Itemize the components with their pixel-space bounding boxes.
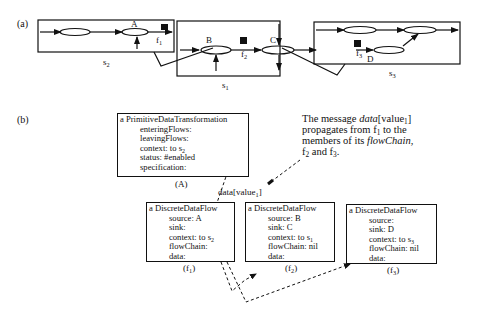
flow-f1-label: f1	[156, 35, 162, 45]
discrete-data-flow-f1-box: a DiscreteDataFlow source: A sink: conte…	[146, 202, 235, 262]
scope-s1-box	[177, 21, 280, 76]
token-f1	[161, 24, 168, 30]
flow-f2-label: f2	[241, 49, 247, 59]
discrete-data-flow-f2-box: a DiscreteDataFlow source: B sink: C con…	[245, 202, 335, 262]
scope-s3-box	[314, 22, 460, 64]
scope-s2-box	[38, 20, 174, 52]
flow-f1-caption: (f1)	[183, 264, 195, 273]
token-f2	[240, 37, 247, 44]
node-A-label: A	[131, 19, 138, 29]
panel-a-label: (a)	[17, 19, 28, 29]
flow-f3-caption: (f3)	[387, 266, 399, 275]
arrow-flowchain-to-f2	[221, 262, 256, 291]
flow-f3-label: f3	[356, 48, 362, 58]
node-D-ellipse	[374, 47, 404, 54]
scope-s3-label: s3	[389, 68, 396, 78]
message-label: data[value1]	[218, 188, 262, 197]
node-A-ellipse	[122, 29, 148, 36]
panel-b-label: (b)	[17, 115, 29, 125]
node-D-label: D	[367, 54, 374, 64]
node-C-ellipse	[262, 46, 294, 54]
discrete-data-flow-f3-box: a DiscreteDataFlow source: sink: D conte…	[346, 204, 437, 264]
node-C-label: C	[270, 35, 276, 45]
link-s2-to-s1	[154, 48, 213, 66]
scope-s1-label: s1	[222, 80, 229, 90]
transformation-caption: (A)	[175, 180, 188, 189]
flow-f2-caption: (f2)	[285, 264, 297, 273]
propagation-note: The message data[value1] propagates from…	[302, 113, 413, 157]
token-f3	[354, 40, 361, 47]
primitive-data-transformation-box: a PrimitiveDataTransformation enteringFl…	[117, 113, 249, 177]
node-B-label: B	[206, 35, 212, 45]
scope-s2-label: s2	[103, 57, 110, 67]
